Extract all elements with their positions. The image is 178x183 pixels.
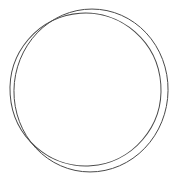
overlapping-circles-drawing: Two overlapping circles outline drawing	[0, 0, 178, 183]
figure-canvas: Two overlapping circles outline drawing	[0, 0, 178, 183]
canvas-background	[0, 0, 178, 183]
